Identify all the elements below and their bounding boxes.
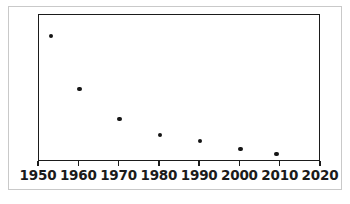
x-tick-1960 — [78, 161, 79, 166]
x-tick-label-2010: 2010 — [261, 167, 298, 183]
x-tick-1980 — [158, 161, 159, 166]
plot-surface — [39, 15, 319, 160]
data-point — [158, 133, 163, 138]
x-tick-label-1980: 1980 — [140, 167, 177, 183]
data-point — [77, 87, 82, 92]
x-tick-label-2000: 2000 — [221, 167, 258, 183]
x-tick-label-1990: 1990 — [181, 167, 218, 183]
x-axis: 19501960197019801990200020102020 — [38, 161, 320, 191]
plot-frame — [38, 14, 320, 161]
x-tick-1950 — [37, 161, 38, 166]
x-tick-label-2020: 2020 — [302, 167, 339, 183]
x-tick-2000 — [239, 161, 240, 166]
data-point — [49, 34, 54, 39]
x-tick-label-1950: 1950 — [20, 167, 57, 183]
x-tick-1990 — [198, 161, 199, 166]
data-point — [238, 147, 243, 152]
x-tick-2010 — [279, 161, 280, 166]
data-point — [117, 117, 122, 122]
data-point — [198, 139, 203, 144]
data-point — [274, 152, 279, 157]
x-tick-label-1960: 1960 — [60, 167, 97, 183]
chart-figure: 19501960197019801990200020102020 — [0, 0, 350, 204]
x-tick-1970 — [118, 161, 119, 166]
x-tick-label-1970: 1970 — [100, 167, 137, 183]
x-tick-2020 — [319, 161, 320, 166]
